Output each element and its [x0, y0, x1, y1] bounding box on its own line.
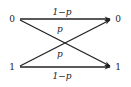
output-node-0: 0: [115, 14, 121, 24]
input-node-0: 0: [9, 14, 15, 24]
edge-label-1-to-1: 1−p: [52, 71, 71, 81]
bsc-diagram: 0 1 0 1 1−p p p 1−p: [0, 0, 131, 87]
input-node-1: 1: [9, 62, 15, 72]
edge-label-0-to-1: p: [57, 24, 63, 34]
edge-label-0-to-0: 1−p: [52, 7, 71, 17]
edge-label-1-to-0: p: [57, 49, 63, 59]
output-node-1: 1: [115, 62, 121, 72]
